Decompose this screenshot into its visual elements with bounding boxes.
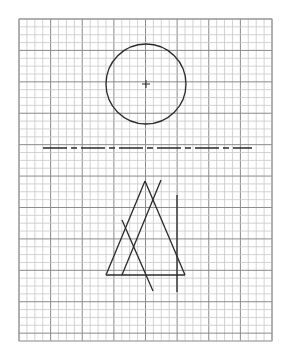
grid-paper bbox=[19, 19, 272, 341]
inner-parallel-line bbox=[122, 180, 161, 275]
circle-center-mark-icon bbox=[142, 80, 150, 88]
triangle-right-side bbox=[145, 181, 185, 275]
grid-paper-drawing bbox=[0, 0, 286, 348]
